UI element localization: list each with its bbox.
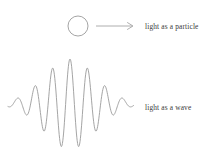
wave-label: light as a wave: [145, 103, 191, 112]
particle-illustration: [68, 16, 133, 36]
circle-outline-icon: [68, 16, 88, 36]
wave-illustration: [8, 59, 134, 146]
wave-particle-duality-diagram: light as a particle light as a wave: [0, 0, 215, 154]
wave-packet-icon: [8, 59, 134, 146]
particle-label: light as a particle: [145, 22, 199, 31]
